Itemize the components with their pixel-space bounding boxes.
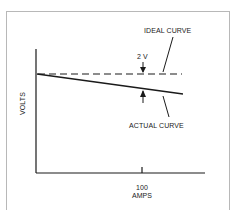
down-arrow-icon: [140, 62, 146, 73]
difference-label: 2 V: [137, 53, 148, 60]
x-tick-label: 100: [136, 184, 148, 191]
y-axis-label: VOLTS: [19, 92, 26, 115]
up-arrow-icon: [140, 90, 146, 103]
actual-curve-line: [37, 74, 183, 94]
ideal-curve-label: IDEAL CURVE: [144, 27, 192, 34]
actual-curve-leader: [163, 96, 169, 117]
actual-curve-label: ACTUAL CURVE: [129, 122, 184, 129]
voltage-current-diagram: IDEAL CURVE 2 V ACTUAL CURVE VOLTS 100 A…: [0, 0, 238, 210]
x-axis-label: AMPS: [132, 192, 152, 199]
ideal-curve-leader: [163, 37, 173, 72]
